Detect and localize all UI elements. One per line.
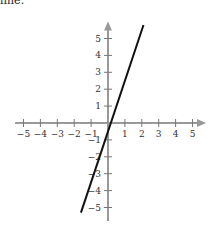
y-axis-arrow-icon	[104, 22, 112, 31]
x-tick-label: −2	[68, 129, 81, 139]
y-tick-label: 2	[95, 84, 101, 94]
x-tick-label: 3	[156, 129, 162, 139]
y-tick-label: 4	[95, 50, 101, 60]
x-tick-label: 5	[190, 129, 196, 139]
x-axis-arrow-icon	[197, 119, 206, 127]
x-tick-label: 2	[139, 129, 145, 139]
y-tick-label: 1	[95, 101, 101, 111]
y-tick-label: 3	[95, 67, 101, 77]
chart: −5−4−3−2−112345−5−4−3−2−112345	[0, 0, 221, 231]
x-tick-label: −4	[34, 129, 48, 139]
x-tick-label: −5	[17, 129, 31, 139]
x-tick-label: 1	[122, 129, 128, 139]
x-tick-label: 4	[173, 129, 179, 139]
y-tick-label: 5	[95, 34, 101, 44]
series-line	[81, 25, 144, 213]
y-tick-label: −1	[88, 135, 101, 145]
y-tick-label: −5	[88, 203, 102, 213]
x-tick-label: −3	[51, 129, 65, 139]
